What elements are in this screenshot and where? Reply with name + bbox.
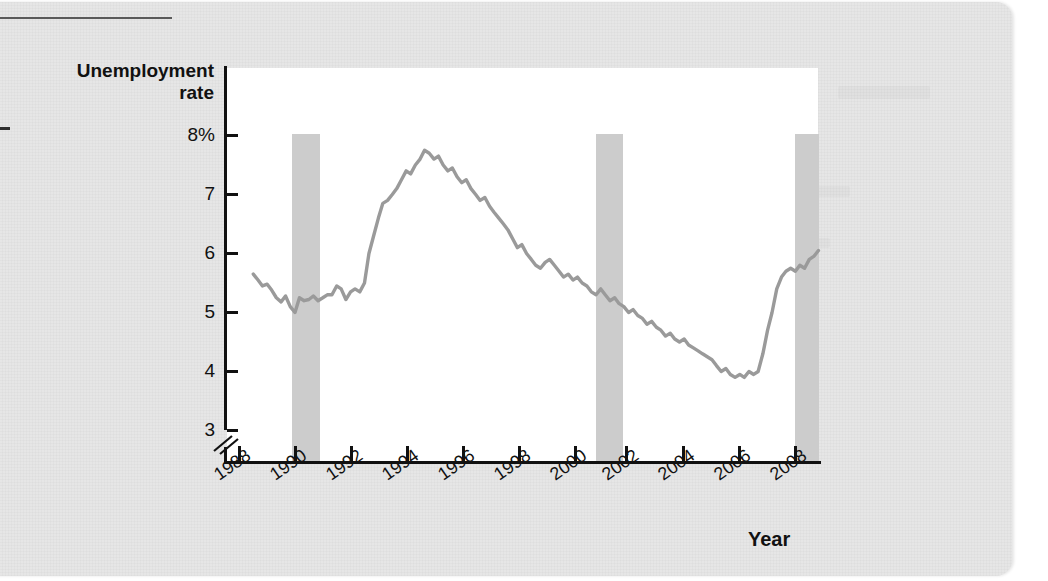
unemployment-rate-chart: 8% 7 6 5 4 3 1988 1990 1992 1994 1996 19…: [0, 0, 1048, 581]
y-tick-label-8: 8%: [145, 124, 215, 146]
y-axis-title: Unemployment rate: [18, 60, 214, 105]
x-axis-title: Year: [748, 528, 790, 551]
recession-band-2001: [596, 134, 623, 462]
y-tick-4: [227, 370, 238, 373]
y-tick-label-3: 3: [145, 419, 215, 441]
page-root: 8% 7 6 5 4 3 1988 1990 1992 1994 1996 19…: [0, 0, 1048, 581]
recession-band-1990: [292, 134, 320, 462]
y-tick-3: [227, 429, 238, 432]
y-tick-label-5: 5: [145, 301, 215, 323]
y-tick-label-4: 4: [145, 360, 215, 382]
y-axis-title-line1: Unemployment: [77, 60, 214, 81]
y-axis-line: [224, 66, 227, 430]
y-tick-7: [227, 193, 238, 196]
recession-band-2008: [795, 134, 819, 462]
y-tick-label-6: 6: [145, 242, 215, 264]
y-tick-5: [227, 311, 238, 314]
y-tick-label-7: 7: [145, 183, 215, 205]
y-tick-6: [227, 252, 238, 255]
y-axis-title-line2: rate: [179, 82, 214, 103]
y-tick-8: [227, 134, 238, 137]
